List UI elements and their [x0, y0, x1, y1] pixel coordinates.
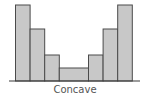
histogram-bar: [59, 68, 88, 81]
chart-caption: Concave: [53, 84, 96, 95]
histogram-bar: [30, 29, 45, 81]
histogram-bar: [89, 55, 104, 81]
bars-group: [16, 5, 133, 81]
histogram-bar: [45, 55, 60, 81]
histogram-bar: [16, 5, 31, 81]
histogram-bar: [103, 29, 118, 81]
histogram-chart: Concave: [0, 0, 147, 97]
histogram-bar: [118, 5, 133, 81]
